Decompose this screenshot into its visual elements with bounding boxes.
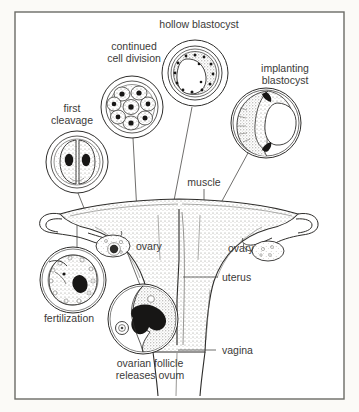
label-continued-cell-division-line1: continued (111, 40, 157, 52)
label-muscle: muscle (187, 176, 220, 188)
label-implanting-blastocyst-line2: blastocyst (262, 74, 309, 86)
ovary-left (96, 235, 130, 257)
reproduction-diagram: hollow blastocyst continued cell divisio… (0, 0, 359, 412)
label-hollow-blastocyst: hollow blastocyst (159, 18, 238, 30)
inset-continued-cell-division (101, 76, 163, 138)
label-ovary-right: ovary (228, 242, 254, 254)
label-ovarian-follicle-line2: releases ovum (116, 369, 185, 381)
nucleus-right (82, 154, 90, 166)
inset-fertilization (40, 247, 106, 313)
label-ovarian-follicle-line1: ovarian follicle (117, 357, 184, 369)
nucleus-left (65, 154, 73, 166)
inset-ovarian-follicle (108, 284, 178, 354)
label-uterus: uterus (222, 271, 251, 283)
label-first-cleavage-line1: first (64, 102, 81, 114)
ovary-right (252, 241, 284, 261)
developing-follicle (148, 296, 155, 303)
label-first-cleavage-line2: cleavage (51, 114, 93, 126)
inset-first-cleavage (46, 131, 108, 193)
label-fertilization: fertilization (44, 312, 94, 324)
inset-implanting-blastocyst (231, 88, 301, 158)
label-implanting-blastocyst-line1: implanting (261, 62, 309, 74)
figure-root: hollow blastocyst continued cell divisio… (0, 0, 359, 412)
inset-hollow-blastocyst (162, 40, 228, 106)
sperm-head (62, 272, 65, 275)
label-ovary-left: ovary (136, 240, 162, 252)
implant-cavity (265, 103, 296, 145)
label-vagina: vagina (222, 344, 253, 356)
label-continued-cell-division-line2: cell division (107, 52, 161, 64)
